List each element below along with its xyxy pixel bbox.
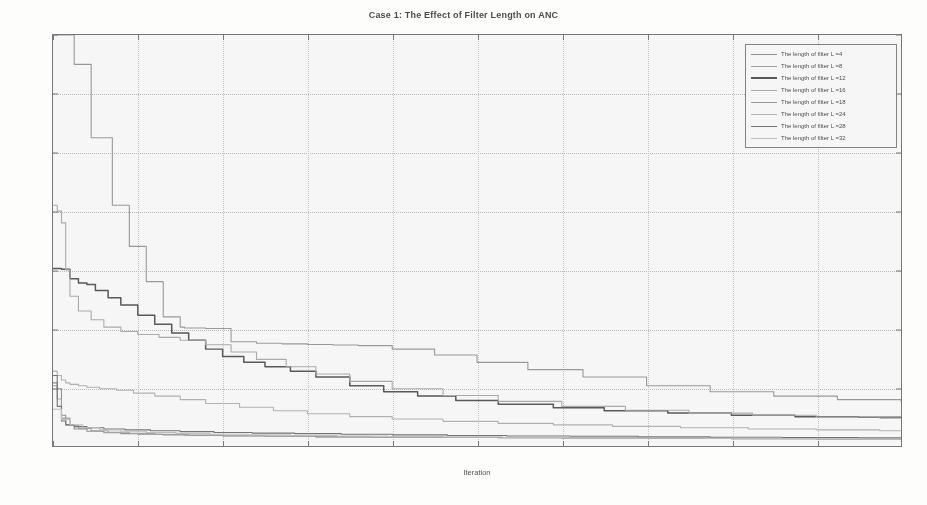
legend-item[interactable]: The length of filter L =4 [748,48,893,60]
legend-item-label: The length of filter L =8 [781,63,842,69]
x-axis-tick-mark [818,35,819,40]
x-axis-tick-mark [733,441,734,446]
x-axis-tick-mark [563,441,564,446]
legend-item[interactable]: The length of filter L =18 [748,96,893,108]
y-axis-tick-mark [896,212,901,213]
legend-item[interactable]: The length of filter L =8 [748,60,893,72]
x-axis-tick-mark [478,35,479,40]
x-axis-tick-mark [393,441,394,446]
legend[interactable]: The length of filter L =4The length of f… [745,44,897,148]
legend-line-swatch [751,138,777,139]
x-axis-tick-mark [818,441,819,446]
x-axis-tick-mark [393,35,394,40]
y-axis-tick-mark [896,271,901,272]
legend-item-label: The length of filter L =18 [781,99,846,105]
series-line [53,205,901,418]
legend-line-swatch [751,77,777,79]
page-title: Case 1: The Effect of Filter Length on A… [0,10,927,20]
figure-canvas: Case 1: The Effect of Filter Length on A… [0,0,927,505]
x-axis-tick-mark [53,35,54,40]
legend-item-label: The length of filter L =16 [781,87,846,93]
legend-item[interactable]: The length of filter L =12 [748,72,893,84]
legend-item[interactable]: The length of filter L =16 [748,84,893,96]
x-axis-tick-mark [478,441,479,446]
y-axis-tick-mark [896,35,901,36]
legend-line-swatch [751,54,777,55]
y-axis-tick-mark [53,389,58,390]
legend-item-label: The length of filter L =12 [781,75,846,81]
x-axis-tick-mark [648,441,649,446]
x-axis-tick-mark [563,35,564,40]
legend-line-swatch [751,114,777,115]
y-axis-tick-mark [53,271,58,272]
legend-line-swatch [751,90,777,91]
x-axis-tick-mark [223,35,224,40]
legend-line-swatch [751,66,777,67]
y-axis-tick-mark [53,212,58,213]
x-axis-tick-mark [308,441,309,446]
x-axis-tick-mark [223,441,224,446]
legend-item[interactable]: The length of filter L =28 [748,120,893,132]
y-axis-tick-mark [53,94,58,95]
legend-item-label: The length of filter L =32 [781,135,846,141]
y-axis-tick-mark [53,330,58,331]
x-axis-label: Iteration [52,468,902,477]
legend-item-label: The length of filter L =24 [781,111,846,117]
legend-line-swatch [751,102,777,103]
legend-item[interactable]: The length of filter L =32 [748,132,893,144]
y-axis-tick-mark [896,389,901,390]
x-axis-tick-mark [138,35,139,40]
x-axis-tick-mark [138,441,139,446]
legend-line-swatch [751,126,777,127]
x-axis-tick-mark [733,35,734,40]
legend-item[interactable]: The length of filter L =24 [748,108,893,120]
x-axis-tick-mark [53,441,54,446]
x-axis-tick-mark [648,35,649,40]
legend-item-label: The length of filter L =4 [781,51,842,57]
y-axis-tick-mark [53,153,58,154]
x-axis-tick-mark [308,35,309,40]
legend-item-label: The length of filter L =28 [781,123,846,129]
y-axis-tick-mark [896,330,901,331]
y-axis-tick-mark [896,153,901,154]
